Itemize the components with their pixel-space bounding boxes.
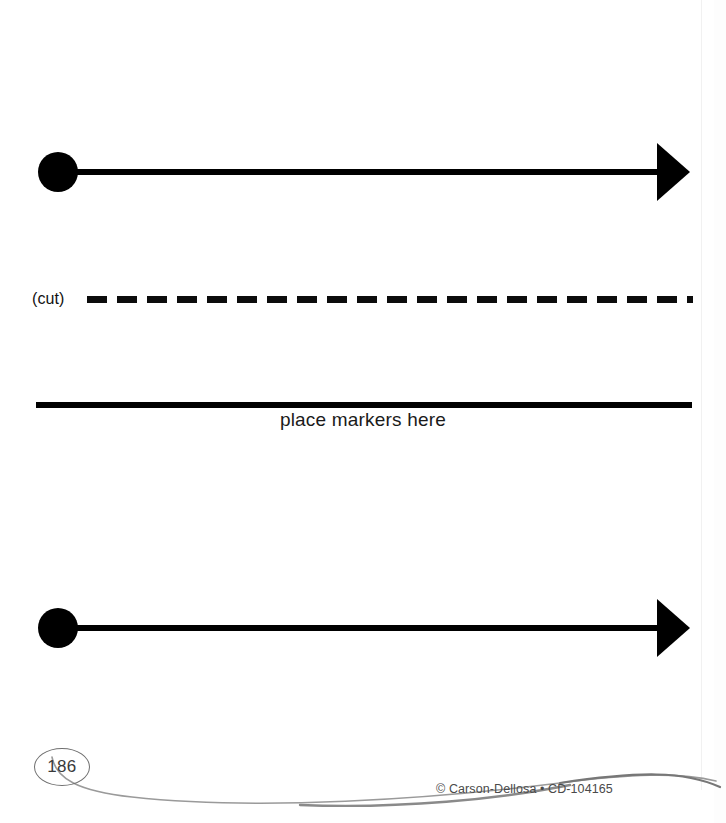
scan-edge-line [701,0,702,790]
worksheet-page: (cut) place markers here 186 © Carson-De… [0,0,726,823]
page-footer [0,735,726,823]
place-markers-caption: place markers here [0,409,726,431]
page-number-badge: 186 [34,748,90,786]
number-line-bottom [0,596,726,660]
copyright-notice: © Carson-Dellosa • CD-104165 [436,782,613,796]
footer-swoosh-decoration [0,735,726,823]
markers-rule [36,402,692,408]
number-line-arrowhead-icon [657,143,690,201]
number-line-arrowhead-icon [657,599,690,657]
number-line-shaft [58,625,664,631]
cut-label: (cut) [32,288,65,310]
cut-line-row: (cut) [0,288,726,314]
cut-dashed-line [87,296,693,303]
number-line-top [0,140,726,204]
number-line-shaft [58,169,664,175]
